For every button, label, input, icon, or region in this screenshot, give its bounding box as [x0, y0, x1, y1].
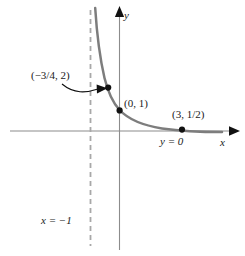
horizontal-asymptote-label: y = 0	[160, 136, 183, 147]
y-axis-arrowhead	[115, 6, 124, 17]
point-c-label: (3, 1/2)	[172, 109, 204, 120]
point-marker-c	[179, 127, 185, 133]
graph-figure: (−3/4, 2) (0, 1) (3, 1/2) y = 0 x = −1 x…	[0, 0, 245, 256]
point-marker-b	[117, 107, 123, 113]
vertical-asymptote-label: x = −1	[41, 215, 72, 226]
y-axis-label: y	[124, 10, 129, 21]
x-axis-label: x	[220, 137, 225, 148]
point-b-label: (0, 1)	[124, 98, 148, 109]
point-marker-a	[105, 85, 111, 91]
callout-arrow-shaft	[62, 84, 98, 92]
plot-canvas	[0, 0, 245, 256]
point-a-label: (−3/4, 2)	[31, 70, 70, 81]
x-axis-arrowhead	[229, 126, 240, 136]
y-axis	[115, 6, 124, 250]
